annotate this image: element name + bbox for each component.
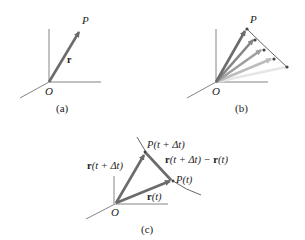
position-vector-r <box>49 32 79 82</box>
point-1 <box>245 27 248 30</box>
point-2 <box>253 38 256 41</box>
caption-c: (c) <box>141 223 154 236</box>
panel-c: P(t + Δt) P(t) r(t + Δt) r(t) r(t + Δt) … <box>86 137 228 236</box>
label-p-t-dt: P(t + Δt) <box>146 139 185 151</box>
vector-r-label: r <box>67 54 72 65</box>
r-arg: (t) <box>152 191 162 203</box>
label-p-t: P(t) <box>175 174 193 186</box>
position-vector-1 <box>216 31 245 82</box>
p-t-text: P(t) <box>175 174 193 186</box>
panel-a: P r O (a) <box>20 14 101 115</box>
point-p-t <box>172 180 175 183</box>
caption-a: (a) <box>56 102 69 115</box>
point-p-label: P <box>81 14 89 26</box>
label-r-t-dt: r(t + Δt) <box>87 160 124 172</box>
origin-o-label: O <box>212 85 220 97</box>
p-t-dt-text: P(t + Δt) <box>146 139 185 151</box>
point-p-t-dt <box>144 151 147 154</box>
diff-mid: (t + Δt) − <box>170 154 214 166</box>
point-4 <box>272 57 275 60</box>
kinematics-diagram: P r O (a) P O (b) <box>0 0 305 240</box>
origin-o-label: O <box>111 206 119 218</box>
vector-r-t <box>116 181 170 203</box>
r-arg: (t + Δt) <box>92 160 124 172</box>
caption-b: (b) <box>235 102 248 115</box>
diff-rest: (t) <box>218 154 228 166</box>
origin-o-label: O <box>45 85 53 97</box>
point-3 <box>262 48 265 51</box>
point-p-label: P <box>249 13 257 25</box>
label-r-t: r(t) <box>147 191 162 203</box>
label-difference: r(t + Δt) − r(t) <box>165 154 228 166</box>
point-5 <box>285 65 288 68</box>
panel-b: P O (b) <box>187 13 289 115</box>
